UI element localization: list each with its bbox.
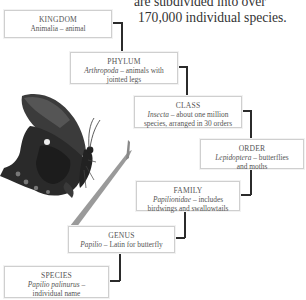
box-kingdom: KINGDOM Animalia – animal	[4, 10, 112, 38]
box-phylum: PHYLUM Arthropoda – animals with jointed…	[70, 52, 178, 84]
connector-phylum-class-v	[186, 66, 188, 96]
connector-class-order-v	[250, 110, 252, 140]
rank-description: Animalia – animal	[5, 24, 111, 33]
connector-family-genus-v	[184, 211, 186, 238]
connector-family-genus	[175, 237, 185, 239]
rank-label: CLASS	[135, 101, 241, 110]
connector-genus-species-v	[119, 254, 121, 281]
box-genus: GENUS Papilio – Latin for butterfly	[68, 226, 175, 253]
rank-description: Lepidoptera – butterflies	[201, 153, 303, 162]
rank-description: Papilio palinurus –	[5, 280, 108, 289]
rank-label: PHYLUM	[71, 57, 177, 66]
intro-line-1: are subdivided into over	[134, 0, 306, 10]
rank-description: Insecta – about one million	[135, 110, 241, 119]
rank-description: Papilio – Latin for butterfly	[69, 240, 174, 249]
connector-genus-species	[109, 280, 120, 282]
box-order: ORDER Lepidoptera – butterflies and moth…	[200, 139, 304, 169]
rank-description: Papilionidae – includes	[137, 195, 239, 204]
rank-label: SPECIES	[5, 271, 108, 280]
connector-order-family-v	[250, 168, 252, 195]
rank-label: KINGDOM	[5, 15, 111, 24]
intro-line-2: 170,000 individual species.	[134, 10, 306, 26]
rank-label: FAMILY	[137, 186, 239, 195]
connector-kingdom-phylum-v	[121, 22, 123, 52]
box-species: SPECIES Papilio palinurus – individual n…	[4, 266, 109, 298]
rank-description: Arthropoda – animals with	[71, 66, 177, 75]
box-family: FAMILY Papilionidae – includes birdwings…	[136, 181, 240, 211]
intro-text: are subdivided into over 170,000 individ…	[134, 0, 306, 25]
rank-label: GENUS	[69, 231, 174, 240]
box-class: CLASS Insecta – about one million specie…	[134, 96, 242, 128]
rank-label: ORDER	[201, 144, 303, 153]
connector-order-family	[240, 194, 251, 196]
